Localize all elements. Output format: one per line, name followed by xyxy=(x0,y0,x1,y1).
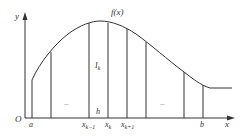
tick-b: b xyxy=(200,120,204,129)
tick-x-k-minus-1-sub: k−1 xyxy=(86,124,96,130)
tick-x-k: xk xyxy=(104,120,112,130)
origin-label: O xyxy=(15,114,22,124)
integral-partition-diagram: y O x f(x) Ik h ··· ··· a xk−1 xk xk+1 b xyxy=(0,0,244,136)
ellipsis-left: ··· xyxy=(64,102,69,108)
tick-x-k-plus-1-sub: k+1 xyxy=(125,124,135,130)
curve-f-of-x xyxy=(32,21,232,88)
curve-label: f(x) xyxy=(111,7,124,17)
ellipsis-right: ··· xyxy=(160,102,165,108)
tick-a-main: a xyxy=(29,120,33,129)
tick-x-k-minus-1: xk−1 xyxy=(81,120,95,130)
tick-x-k-sub: k xyxy=(109,124,112,130)
area-label: Ik xyxy=(94,61,101,71)
area-label-sub: k xyxy=(98,65,101,71)
tick-a: a xyxy=(29,120,33,129)
tick-x-k-plus-1: xk+1 xyxy=(120,120,134,130)
tick-b-main: b xyxy=(200,120,204,129)
y-axis-label: y xyxy=(14,11,19,21)
step-label: h xyxy=(96,107,100,116)
x-axis-label: x xyxy=(224,119,229,129)
y-axis-arrow-icon xyxy=(23,12,28,20)
partition-lines xyxy=(32,23,203,118)
